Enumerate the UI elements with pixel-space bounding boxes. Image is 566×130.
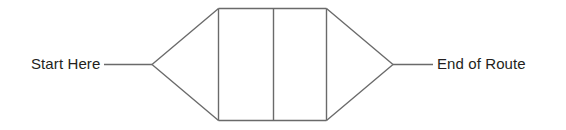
right-wedge-lower-edge (327, 65, 394, 121)
left-wedge-upper-edge (152, 9, 219, 65)
left-wedge-lower-edge (152, 65, 219, 121)
right-wedge-upper-edge (327, 9, 394, 65)
start-here-label: Start Here (31, 55, 100, 73)
route-diagram: Start Here End of Route (0, 0, 566, 130)
end-of-route-label: End of Route (437, 55, 526, 73)
